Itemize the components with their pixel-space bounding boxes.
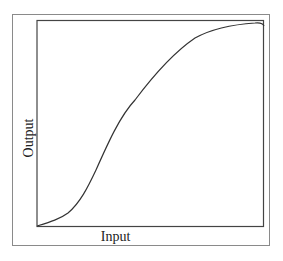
x-axis-label-wrap: Input [0,228,257,246]
y-axis-label: Output [22,119,36,158]
plot-box [37,21,264,227]
response-curve [37,23,264,226]
chart-plot-area [0,0,283,261]
x-axis-label: Input [101,228,131,246]
